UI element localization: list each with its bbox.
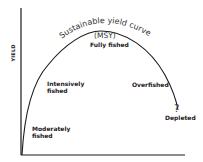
- stage-overfished: Overfished: [132, 81, 169, 88]
- stage-intensively-fished: Intensively fished: [47, 80, 84, 94]
- stage-depleted: Depleted: [165, 114, 196, 121]
- uncertain-marker: ?: [174, 103, 179, 114]
- msy-label: (MSY): [94, 31, 116, 40]
- stage-fully-fished: Fully fished: [90, 41, 129, 48]
- stage-moderately-fished: Moderately fished: [32, 125, 70, 139]
- y-axis-label: YIELD: [10, 44, 16, 61]
- yield-diagram: Sustainable yield curve: [0, 0, 203, 162]
